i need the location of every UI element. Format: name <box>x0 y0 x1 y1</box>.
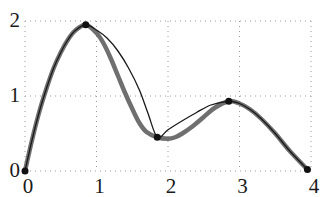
knot-marker <box>82 21 89 28</box>
x-tick-label: 1 <box>89 176 111 197</box>
x-tick-label: 2 <box>160 176 182 197</box>
y-tick-label: 1 <box>0 85 20 106</box>
x-tick-label: 4 <box>303 176 325 197</box>
knot-marker <box>225 98 232 105</box>
series-line <box>25 25 307 171</box>
x-tick-label: 0 <box>17 176 39 197</box>
knot-marker <box>304 166 311 173</box>
plot-area <box>0 0 326 197</box>
data-series-group <box>25 25 307 171</box>
series-line <box>25 25 307 171</box>
x-tick-label: 3 <box>232 176 254 197</box>
knot-marker <box>154 134 161 141</box>
y-tick-label: 2 <box>0 10 20 31</box>
chart-container: 01201234 <box>0 0 326 197</box>
